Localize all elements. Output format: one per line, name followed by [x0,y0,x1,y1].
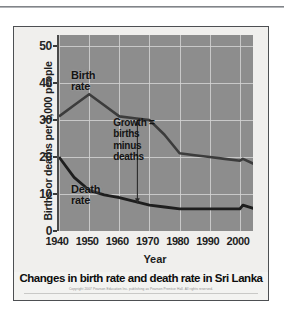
top-divider [0,6,284,8]
x-axis-tick-label: 1960 [106,235,129,247]
figure-credit: Copyright 2007 Pearson Education Inc. pu… [14,287,268,291]
caption-strip: Changes in birth rate and death rate in … [14,272,268,300]
plot-region: Birth rate Death rate Growth = births mi… [57,35,253,231]
x-axis-tick-label: 2000 [226,235,249,247]
y-axis-tick-label: 20 [22,150,52,164]
x-axis-tick-label: 1940 [46,235,69,247]
birth-rate-label: Birth rate [71,70,95,92]
x-axis-tick-label: 1990 [196,235,219,247]
figure-container: Births or deaths per 1,000 people 010203… [13,26,269,301]
x-axis-tick-label: 1980 [166,235,189,247]
y-axis-tick-label: 10 [22,187,52,201]
birth-rate-line [59,94,253,164]
figure-caption: Changes in birth rate and death rate in … [14,272,268,284]
y-axis-tick-label: 30 [22,113,52,127]
chart-area: Births or deaths per 1,000 people 010203… [14,27,268,272]
x-axis-ticks: 1940195019601970198019902000 [57,235,253,251]
caption-divider [24,293,258,294]
death-rate-label: Death rate [71,184,100,206]
growth-annotation: Growth = births minus deaths [113,117,154,163]
y-axis-tick-label: 40 [22,76,52,90]
x-axis-label: Year [57,253,253,265]
x-axis-tick-label: 1950 [76,235,99,247]
x-axis-tick-label: 1970 [136,235,159,247]
y-axis-tick-label: 50 [22,39,52,53]
y-axis-label-wrapper: Births or deaths per 1,000 people [18,35,38,231]
